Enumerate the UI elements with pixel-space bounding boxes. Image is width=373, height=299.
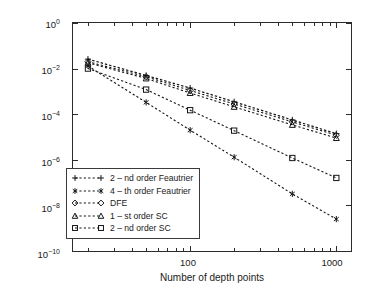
legend-item-1: 4 – th order Feautrier	[71, 185, 193, 198]
series-line	[88, 62, 336, 135]
data-point	[290, 155, 295, 160]
legend-label: 4 – th order Feautrier	[105, 186, 191, 196]
data-point	[334, 175, 339, 180]
legend-marker-plus-icon	[71, 172, 105, 184]
series-line	[88, 63, 336, 138]
data-point	[188, 127, 193, 133]
legend-label: DFE	[105, 198, 127, 208]
y-tick	[346, 251, 351, 252]
series-0	[85, 56, 340, 137]
data-point	[232, 154, 237, 160]
data-point	[334, 216, 339, 222]
legend: 2 – nd order Feautrier4 – th order Feaut…	[66, 168, 200, 239]
y-tick-label-1e-4: 10−4	[14, 110, 60, 122]
data-point	[144, 99, 149, 105]
legend-label: 1 – st order SC	[105, 211, 168, 221]
legend-marker-asterisk-icon	[71, 185, 105, 197]
figure-log-log-error-plot: Maximum absolute error 100 10−2 10−4 10−…	[0, 0, 373, 299]
y-tick-label-1e-10: 10−10	[14, 248, 60, 260]
y-tick-label-1e-6: 10−6	[14, 156, 60, 168]
series-line	[88, 59, 336, 134]
series-line	[88, 69, 336, 178]
legend-marker-square-icon	[71, 222, 105, 234]
legend-label: 2 – nd order SC	[105, 223, 171, 233]
x-tick-label-1000: 1000	[321, 258, 342, 268]
y-tick	[73, 251, 78, 252]
series-2	[85, 59, 340, 139]
y-tick-label-1e-8: 10−8	[14, 202, 60, 214]
y-tick-label-1e0: 100	[14, 18, 60, 30]
y-tick-label-1e-2: 10−2	[14, 64, 60, 76]
x-tick-label-100: 100	[180, 258, 196, 268]
x-axis-title: Number of depth points	[72, 272, 352, 283]
series-4	[85, 66, 339, 181]
legend-item-2: DFE	[71, 197, 193, 210]
legend-marker-triangle-icon	[71, 210, 105, 222]
data-point	[290, 191, 295, 197]
legend-marker-diamond-icon	[71, 197, 105, 209]
legend-label: 2 – nd order Feautrier	[105, 173, 193, 183]
series-3	[85, 60, 339, 141]
legend-item-3: 1 – st order SC	[71, 210, 193, 223]
legend-item-0: 2 – nd order Feautrier	[71, 172, 193, 185]
legend-item-4: 2 – nd order SC	[71, 222, 193, 235]
